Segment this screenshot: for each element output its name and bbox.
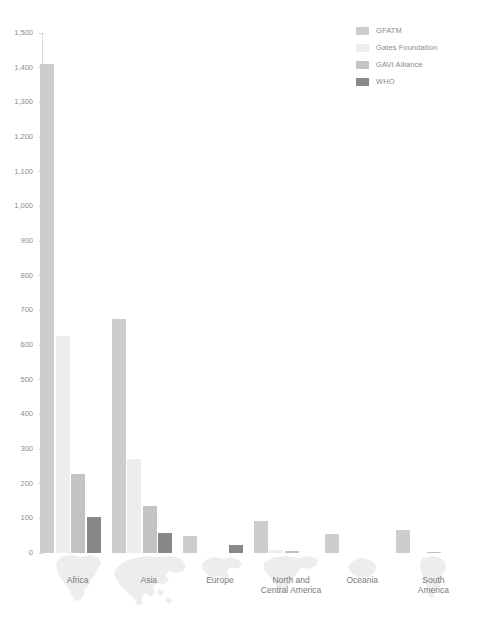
y-axis-tick-label: 1,100 <box>14 167 33 177</box>
europe-map-icon <box>195 553 245 591</box>
y-axis-tick: 1,100 <box>2 167 42 177</box>
bar[interactable] <box>71 474 85 553</box>
y-axis-tick-label: 1,300 <box>14 97 33 107</box>
bar-group <box>183 33 244 553</box>
y-axis-tick: 1,500 <box>2 28 42 38</box>
plot-area: 1,5001,4001,3001,2001,1001,0009008007006… <box>42 33 470 553</box>
y-axis-tick: 1,000 <box>2 201 42 211</box>
x-axis-category-label: Oceania <box>346 575 378 585</box>
y-axis-tick: 1,300 <box>2 97 42 107</box>
bar-group <box>325 33 386 553</box>
x-axis-category-label: Europe <box>206 575 233 585</box>
y-axis-tick: 0 <box>2 548 42 558</box>
y-axis-tick-label: 200 <box>20 479 33 489</box>
asia-map-icon <box>109 553 189 617</box>
y-axis-tick-label: 300 <box>20 444 33 454</box>
y-axis-tick: 800 <box>2 271 42 281</box>
y-axis-tick: 100 <box>2 513 42 523</box>
y-axis-tick-label: 0 <box>29 548 33 558</box>
bar[interactable] <box>87 517 101 553</box>
y-axis-tick-label: 400 <box>20 409 33 419</box>
bar[interactable] <box>112 319 126 553</box>
bar[interactable] <box>158 533 172 553</box>
y-axis-tick-label: 700 <box>20 305 33 315</box>
y-axis-tick: 600 <box>2 340 42 350</box>
x-axis-category-label: Africa <box>67 575 89 585</box>
y-axis-tick: 1,400 <box>2 63 42 73</box>
y-axis-tick-label: 600 <box>20 340 33 350</box>
y-axis-tick: 300 <box>2 444 42 454</box>
y-axis-tick: 500 <box>2 375 42 385</box>
bar[interactable] <box>183 536 197 553</box>
bar-group <box>254 33 315 553</box>
y-axis-tick: 1,200 <box>2 132 42 142</box>
y-axis-tick-label: 1,400 <box>14 63 33 73</box>
bar[interactable] <box>40 64 54 553</box>
y-axis-tick-label: 800 <box>20 271 33 281</box>
x-axis-categories: AfricaAsiaEuropeNorth andCentral America… <box>42 553 470 640</box>
bar[interactable] <box>229 545 243 553</box>
bar[interactable] <box>254 521 268 553</box>
y-axis-tick-label: 1,200 <box>14 132 33 142</box>
y-axis-tick-label: 900 <box>20 236 33 246</box>
bar[interactable] <box>127 459 141 553</box>
bar-groups <box>43 33 470 553</box>
y-axis-tick-label: 1,000 <box>14 201 33 211</box>
bar-group <box>112 33 173 553</box>
x-axis-category-label: North andCentral America <box>261 575 321 595</box>
bar[interactable] <box>396 530 410 553</box>
bar-group <box>396 33 457 553</box>
y-axis-tick: 400 <box>2 409 42 419</box>
y-axis-tick-label: 100 <box>20 513 33 523</box>
bar[interactable] <box>325 534 339 553</box>
y-axis-tick: 200 <box>2 479 42 489</box>
grouped-bar-chart: GFATMGates FoundationGAVI AllianceWHO 1,… <box>0 0 487 640</box>
y-axis-tick-label: 500 <box>20 375 33 385</box>
y-axis-tick-label: 1,500 <box>14 28 33 38</box>
bar-group <box>40 33 101 553</box>
y-axis-tick: 900 <box>2 236 42 246</box>
bar[interactable] <box>56 336 70 553</box>
x-axis-category-label: SouthAmerica <box>418 575 449 595</box>
x-axis-category-label: Asia <box>140 575 157 585</box>
y-axis-tick: 700 <box>2 305 42 315</box>
bar[interactable] <box>143 506 157 553</box>
